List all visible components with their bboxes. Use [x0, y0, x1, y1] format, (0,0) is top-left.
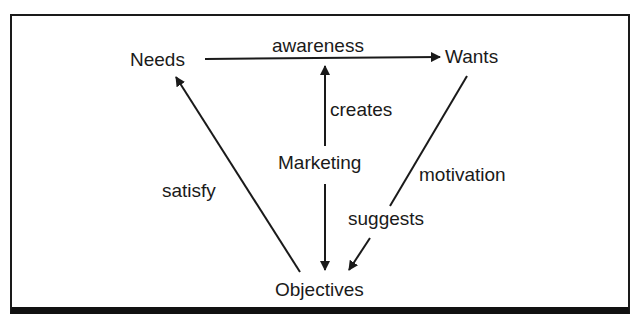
line-wants-to-suggests — [390, 76, 467, 206]
edge-label-motivation: motivation — [419, 165, 506, 184]
arrow-suggests-to-objectives — [349, 238, 370, 270]
arrow-needs-to-wants — [205, 57, 440, 59]
edge-label-suggests: suggests — [348, 209, 424, 228]
node-objectives: Objectives — [275, 280, 364, 299]
node-marketing: Marketing — [278, 153, 361, 172]
edge-label-awareness: awareness — [272, 36, 364, 55]
node-wants: Wants — [445, 47, 498, 66]
arrow-objectives-to-needs — [176, 77, 300, 272]
node-needs: Needs — [130, 50, 185, 69]
edge-label-creates: creates — [330, 100, 392, 119]
edge-label-satisfy: satisfy — [162, 181, 216, 200]
